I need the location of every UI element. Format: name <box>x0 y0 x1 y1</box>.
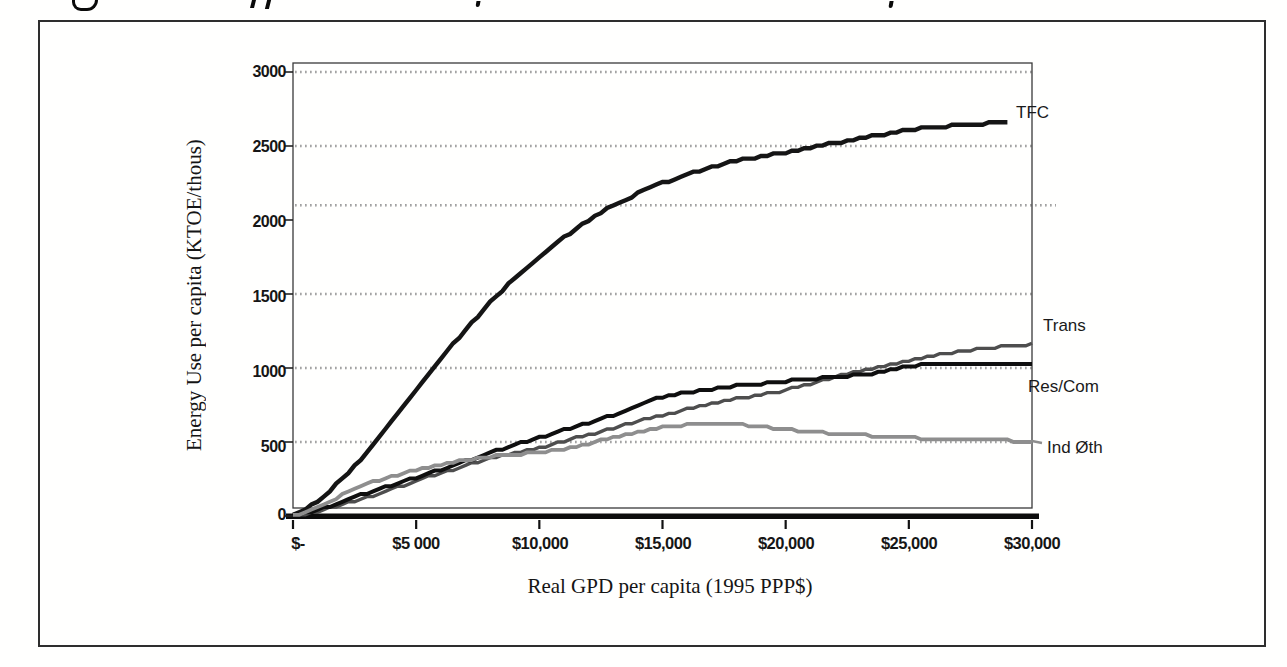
y-tick-label: 500 <box>228 438 286 456</box>
x-tick-label: $20,000 <box>738 534 834 553</box>
x-tick-label: $10,000 <box>492 534 588 553</box>
y-tick-label: 0 <box>228 506 286 524</box>
scanned-figure-page: 3000 2500 2000 1500 1000 500 0 $- $5 000… <box>0 0 1287 667</box>
y-tick-label: 2500 <box>228 138 286 156</box>
y-tick-label: 3000 <box>228 63 286 81</box>
x-axis-title: Real GPD per capita (1995 PPP$) <box>460 574 880 599</box>
x-tick-label: $15,000 <box>615 534 711 553</box>
series-label-trans: Trans <box>1043 316 1086 336</box>
y-tick-label: 2000 <box>228 213 286 231</box>
x-tick-label: $- <box>250 534 346 553</box>
series-label-rescom: Res/Com <box>1028 377 1099 397</box>
x-tick-label: $5 000 <box>368 534 464 553</box>
x-tick-label: $25,000 <box>861 534 957 553</box>
series-label-indoth: Ind Øth <box>1047 438 1103 458</box>
series-label-tfc: TFC <box>1016 103 1049 123</box>
y-tick-label: 1500 <box>228 288 286 306</box>
x-tick-label: $30,000 <box>984 534 1080 553</box>
y-tick-label: 1000 <box>228 363 286 381</box>
y-axis-title: Energy Use per capita (KTOE/thous) <box>172 70 216 520</box>
